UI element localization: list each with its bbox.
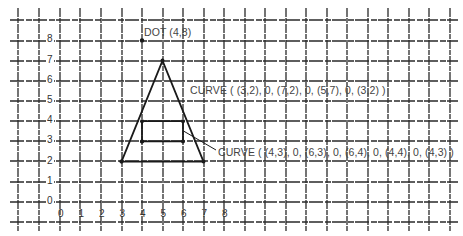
horizontal-grid-lines <box>10 20 458 222</box>
vertex-dot <box>181 139 185 143</box>
x-axis-label: 3 <box>120 209 126 219</box>
y-axis-label: 8 <box>46 34 54 44</box>
y-axis-label: 4 <box>46 115 54 125</box>
vertex-dot <box>161 59 165 63</box>
vertex-dot <box>202 160 206 164</box>
y-axis-label: 2 <box>46 156 54 166</box>
x-axis-label: 4 <box>140 209 146 219</box>
triangle-curve-label: CURVE ( (3,2), 0, (7,2), 0, (5,7), 0, (3… <box>190 84 386 96</box>
grid-canvas <box>0 0 463 236</box>
y-axis-label: 0 <box>46 196 54 206</box>
y-axis-label: 5 <box>46 95 54 105</box>
x-axis-label: 1 <box>79 209 85 219</box>
rectangle-curve-label: CURVE ( (4,3), 0, (6,3), 0, (6,4), 0, (4… <box>218 146 454 158</box>
vertex-dot <box>181 119 185 123</box>
vertex-dot <box>120 160 124 164</box>
dot-point <box>140 38 144 42</box>
y-axis-label: 7 <box>46 55 54 65</box>
y-axis-label: 3 <box>46 135 54 145</box>
x-axis-label: 2 <box>99 209 105 219</box>
x-axis-label: 5 <box>161 209 167 219</box>
dot-label: DOT (4,8) <box>144 26 191 38</box>
vertex-dot <box>140 139 144 143</box>
y-axis-label: 1 <box>46 176 54 186</box>
y-axis-label: 6 <box>46 75 54 85</box>
vertex-dot <box>140 119 144 123</box>
x-axis-label: 0 <box>58 209 64 219</box>
x-axis-label: 8 <box>222 209 228 219</box>
x-axis-label: 7 <box>202 209 208 219</box>
x-axis-label: 6 <box>181 209 187 219</box>
